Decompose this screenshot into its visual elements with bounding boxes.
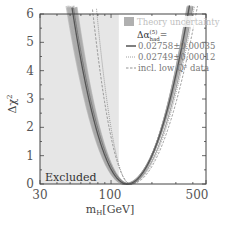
y-tick-label: 2 [26,120,34,134]
legend-entry: 0.02749±0.00012 [138,52,215,62]
y-tick-label: 5 [26,35,34,49]
y-tick-label: 4 [26,64,34,78]
y-tick-label: 1 [26,149,34,163]
excluded-label: Excluded [45,171,97,184]
legend: Theory uncertainty Δα(5)had= 0.02758±0.0… [120,16,220,73]
legend-band-label: Theory uncertainty [137,17,220,27]
chart: 0 1 2 3 4 5 6 30 100 500 mH[GeV] Δχ2 Exc… [0,0,225,225]
y-axis-title: Δχ2 [6,94,19,113]
legend-entry: 0.02758±0.00035 [138,41,215,51]
legend-entry: incl. low Q² data [138,63,209,73]
y-tick-label: 6 [26,7,34,21]
x-tick-label: 100 [99,188,122,202]
x-tick-label: 500 [186,188,209,202]
band-swatch [124,17,134,26]
y-tick-label: 3 [26,92,34,106]
x-tick-label: 30 [32,188,47,202]
x-axis-title: mH[GeV] [86,203,134,217]
